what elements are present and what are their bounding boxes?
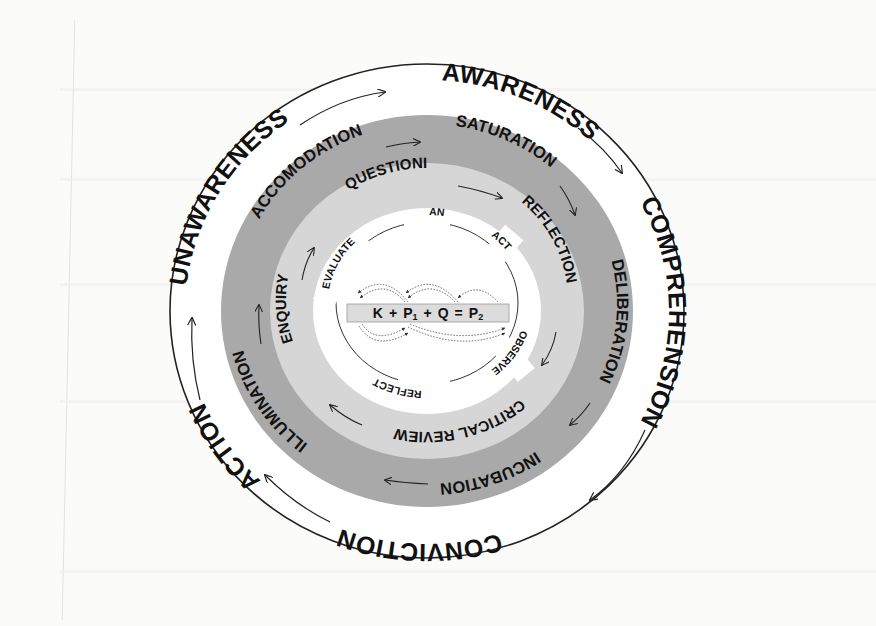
learning-cycle-diagram: AWARENESS COMPREHENSION CONVICTION ACTIO… bbox=[0, 0, 876, 626]
